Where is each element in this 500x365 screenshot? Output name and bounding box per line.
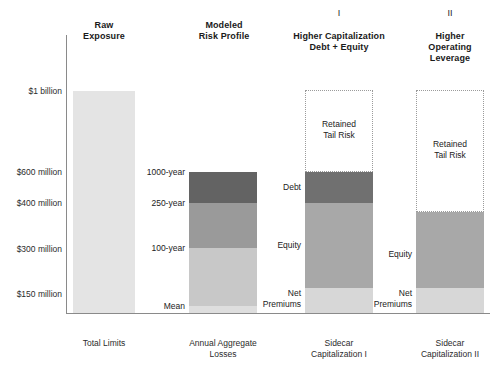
- label-net-premiums-i-line2: Premiums: [228, 299, 301, 310]
- column-numeral-one: I: [288, 8, 390, 19]
- x-label-annual-aggregate-losses: Annual Aggregate Losses: [177, 338, 269, 360]
- label-retained-tail-risk-line2: Tail Risk: [417, 150, 483, 161]
- y-tick-label: $1 billion: [28, 86, 62, 96]
- y-axis-line: [66, 35, 67, 313]
- column-header-higher-capitalization: Higher Capitalization Debt + Equity: [283, 31, 395, 53]
- bar-segment-equity-i: [305, 203, 373, 288]
- x-label-sidecar-capitalization-i: Sidecar Capitalization I: [293, 338, 385, 360]
- column-header-line: Raw: [62, 20, 146, 31]
- label-net-premiums-i-line1: Net: [228, 288, 301, 299]
- column-header-line: Debt + Equity: [283, 42, 395, 53]
- column-header-raw-exposure: Raw Exposure: [62, 20, 146, 42]
- x-label-line: Annual Aggregate: [177, 338, 269, 349]
- x-label-line: Sidecar: [404, 338, 496, 349]
- y-tick-label: $600 million: [17, 167, 62, 177]
- label-retained-tail-risk-line1: Retained: [417, 139, 483, 150]
- label-equity-ii: Equity: [339, 249, 412, 260]
- column-header-line: Higher Capitalization: [283, 31, 395, 42]
- column-header-higher-operating-leverage: Higher Operating Leverage: [400, 31, 500, 64]
- label-retained-tail-risk-line1: Retained: [306, 119, 372, 130]
- bar-segment-equity-ii: [416, 212, 484, 288]
- label-100-year: 100-year: [112, 243, 185, 254]
- column-header-line: Modeled: [178, 20, 270, 31]
- label-debt: Debt: [228, 182, 301, 193]
- x-label-line: Losses: [177, 349, 269, 360]
- y-tick-600-million: $600 million: [0, 167, 62, 177]
- y-tick-label: $400 million: [17, 198, 62, 208]
- column-header-line: Risk Profile: [178, 31, 270, 42]
- x-label-total-limits: Total Limits: [62, 338, 146, 349]
- x-label-line: Sidecar: [293, 338, 385, 349]
- column-header-line: Operating: [400, 42, 500, 53]
- x-label-line: Total Limits: [62, 338, 146, 349]
- bar-segment-debt: [305, 172, 373, 203]
- label-equity-i: Equity: [228, 240, 301, 251]
- bar-segment-net-premiums-ii: [416, 288, 484, 313]
- label-250-year: 250-year: [112, 198, 185, 209]
- label-net-premiums-ii-line1: Net: [339, 288, 412, 299]
- x-label-sidecar-capitalization-ii: Sidecar Capitalization II: [404, 338, 496, 360]
- x-axis-baseline: [66, 313, 490, 314]
- column-header-modeled-risk-profile: Modeled Risk Profile: [178, 20, 270, 42]
- column-header-line: Leverage: [400, 53, 500, 64]
- x-label-line: Capitalization I: [293, 349, 385, 360]
- label-net-premiums-ii-line2: Premiums: [339, 299, 412, 310]
- y-tick-400-million: $400 million: [0, 198, 62, 208]
- y-tick-label: $300 million: [17, 244, 62, 254]
- y-tick-150-million: $150 million: [0, 289, 62, 299]
- label-1000-year: 1000-year: [112, 167, 185, 178]
- x-label-line: Capitalization II: [404, 349, 496, 360]
- y-tick-label: $150 million: [17, 289, 62, 299]
- column-header-line: Higher: [400, 31, 500, 42]
- bar-segment-retained-tail-risk-i: Retained Tail Risk: [305, 90, 373, 172]
- y-tick-1-billion: $1 billion: [0, 86, 62, 96]
- y-tick-300-million: $300 million: [0, 244, 62, 254]
- column-header-line: Exposure: [62, 31, 146, 42]
- chart-canvas: Raw Exposure Modeled Risk Profile I High…: [0, 0, 500, 365]
- label-mean: Mean: [112, 301, 185, 312]
- column-numeral-two: II: [400, 8, 500, 19]
- bar-segment-retained-tail-risk-ii: Retained Tail Risk: [416, 90, 484, 212]
- label-retained-tail-risk-line2: Tail Risk: [306, 130, 372, 141]
